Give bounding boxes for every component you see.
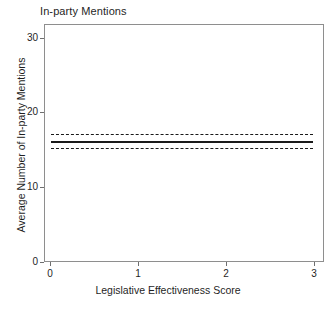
plot-area [44, 24, 324, 262]
x-tick-mark-1 [138, 262, 139, 266]
upper-confidence-line [51, 134, 313, 135]
x-tick-mark-3 [314, 262, 315, 266]
x-tick-label-2: 2 [211, 268, 241, 279]
y-tick-mark-30 [40, 38, 44, 39]
y-axis-title: Average Number of In-party Mentions [15, 20, 27, 270]
y-tick-mark-0 [40, 262, 44, 263]
y-tick-label-10: 10 [27, 182, 38, 192]
chart-title: In-party Mentions [40, 4, 127, 18]
x-tick-mark-2 [226, 262, 227, 266]
x-tick-label-1: 1 [123, 268, 153, 279]
x-tick-label-3: 3 [299, 268, 329, 279]
mean-prediction-line [51, 141, 313, 143]
y-tick-label-30: 30 [27, 33, 38, 43]
chart-figure: In-party Mentions 30 20 10 0 0 1 2 3 Leg… [0, 0, 336, 313]
lower-confidence-line [51, 148, 313, 149]
y-tick-mark-10 [40, 187, 44, 188]
y-tick-label-20: 20 [27, 107, 38, 117]
x-tick-label-0: 0 [35, 268, 65, 279]
y-tick-label-0: 0 [32, 257, 38, 267]
x-axis-title: Legislative Effectiveness Score [0, 284, 336, 296]
y-tick-mark-20 [40, 112, 44, 113]
x-tick-mark-0 [50, 262, 51, 266]
